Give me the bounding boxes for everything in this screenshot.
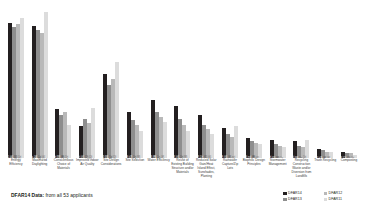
legend-swatch-icon	[283, 192, 287, 196]
bar-dfar11: 7	[282, 147, 286, 158]
legend-label: DFAR14	[288, 191, 302, 196]
bar-group: 1311109	[242, 6, 266, 158]
caption-rest: from all 53 applicants	[44, 192, 93, 198]
bar-group: 87848296	[28, 6, 52, 158]
chart-footer: DFAR14 Data: from all 53 applicants DFAR…	[0, 190, 365, 216]
bar-dfar11: 24	[163, 122, 167, 159]
chart-plot-area: 8986889287848296322830222126233355485263…	[4, 6, 361, 158]
chart-caption: DFAR14 Data: from all 53 applicants	[11, 192, 93, 199]
x-axis-label: Biophilic Design Principles	[242, 159, 266, 189]
legend-swatch-icon	[324, 198, 328, 202]
legend-item-dfar11[interactable]: DFAR11	[324, 197, 362, 202]
bar-group: 89868892	[4, 6, 28, 158]
legend-swatch-icon	[283, 198, 287, 202]
bar-dfar11: 33	[91, 108, 95, 158]
bar-group: 6544	[313, 6, 337, 158]
bar-dfar11: 96	[44, 12, 48, 158]
legend-item-dfar14[interactable]: DFAR14	[283, 191, 321, 196]
bar-group: 20161421	[218, 6, 242, 158]
legend-swatch-icon	[324, 192, 328, 196]
bar-group: 38302724	[147, 6, 171, 158]
x-axis-label: Site Design Considerations	[99, 159, 123, 189]
legend-label: DFAR11	[329, 197, 342, 202]
bar-group: 32283022	[52, 6, 76, 158]
legend-item-dfar12[interactable]: DFAR12	[324, 191, 362, 196]
bar-dfar11: 12	[305, 140, 309, 158]
bar-group: 55485263	[99, 6, 123, 158]
x-axis-label: Conscientious Choice of Materials	[52, 159, 76, 189]
x-axis-label: Trash Recycling	[313, 159, 337, 189]
bar-group: 4332	[337, 6, 361, 158]
legend-label: DFAR12	[329, 191, 343, 196]
bar-dfar11: 18	[139, 131, 143, 158]
bar-group: 118712	[290, 6, 314, 158]
bar-dfar11: 21	[234, 126, 238, 158]
caption-strong: DFAR14 Data:	[11, 192, 44, 198]
grouped-bar-chart: 8986889287848296322830222126233355485263…	[0, 0, 365, 216]
x-axis-label: Energy Efficiency	[4, 159, 28, 189]
x-axis-label: Improved Indoor Air Quality	[75, 159, 99, 189]
x-axis-label: Composting	[337, 159, 361, 189]
bar-group: 34262218	[171, 6, 195, 158]
bar-dfar11: 9	[258, 144, 262, 158]
chart-legend: DFAR14DFAR12DFAR13DFAR11	[283, 191, 361, 202]
x-axis-label: Rainwater Capture/Zip Lots	[218, 159, 242, 189]
legend-label: DFAR13	[288, 197, 302, 202]
bar-group: 12987	[266, 6, 290, 158]
x-axis-labels: Energy EfficiencyMaximized DaylightingCo…	[4, 159, 361, 189]
x-axis-label: Water Efficiency	[147, 159, 171, 189]
bar-group: 30252218	[123, 6, 147, 158]
x-axis-label: Reuse of Existing Building Structure and…	[171, 159, 195, 189]
bar-dfar11: 22	[67, 125, 71, 158]
bar-group: 28221916	[194, 6, 218, 158]
bar-dfar11: 63	[115, 62, 119, 158]
bar-dfar11: 92	[20, 18, 24, 158]
legend-item-dfar13[interactable]: DFAR13	[283, 197, 321, 202]
x-axis-label: Maximized Daylighting	[28, 159, 52, 189]
bar-dfar11: 16	[210, 134, 214, 158]
x-axis-label: Stormwater Management	[266, 159, 290, 189]
bar-group: 21262333	[75, 6, 99, 158]
bar-dfar11: 18	[186, 131, 190, 158]
x-axis-label: Reduced Solar Gain/Heat Island Effect, S…	[194, 159, 218, 189]
x-axis-label: Recycling Construction Waste and/or Dive…	[290, 159, 314, 189]
x-axis-label: Site Selection	[123, 159, 147, 189]
